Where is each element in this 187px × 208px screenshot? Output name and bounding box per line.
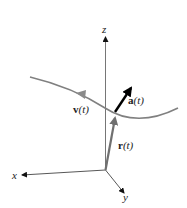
space-curve-diagram: z x y v(t) a(t) r(t) — [0, 0, 187, 208]
diagram-canvas — [0, 0, 187, 208]
position-arg: (t) — [123, 139, 133, 151]
velocity-label: v(t) — [73, 104, 89, 115]
z-axis-label: z — [102, 24, 106, 35]
x-axis — [22, 170, 106, 175]
y-axis — [106, 170, 125, 193]
position-vector — [106, 118, 116, 170]
acceleration-arg: (t) — [134, 94, 144, 106]
space-curve — [30, 77, 178, 118]
position-label: r(t) — [118, 140, 133, 151]
velocity-arg: (t) — [79, 103, 89, 115]
y-axis-label: y — [123, 192, 128, 203]
velocity-arrowhead — [76, 90, 86, 99]
x-axis-label: x — [12, 170, 17, 181]
acceleration-label: a(t) — [128, 95, 144, 106]
